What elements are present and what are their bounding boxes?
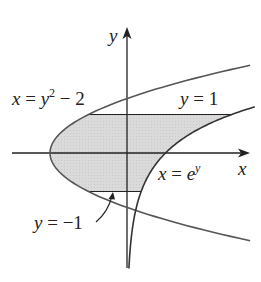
parabola-label: x = y2 − 2 bbox=[11, 86, 85, 109]
pointer-arrow bbox=[96, 196, 112, 222]
region-diagram: y x x = y2 − 2 y = 1 x = ey y = −1 bbox=[0, 0, 261, 282]
y-axis-label: y bbox=[107, 25, 118, 46]
x-axis-label: x bbox=[237, 158, 247, 179]
line-y-equals-minus-1-label: y = −1 bbox=[32, 212, 83, 233]
pointer-arrowhead-icon bbox=[109, 192, 116, 200]
exponential-label: x = ey bbox=[157, 161, 201, 184]
line-y-equals-1-label: y = 1 bbox=[178, 88, 218, 109]
